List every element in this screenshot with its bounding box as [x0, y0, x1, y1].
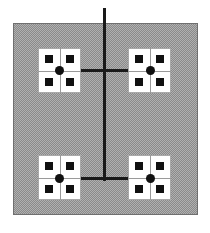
quadrant-marker-square: [45, 55, 53, 63]
quadrant-marker-square: [156, 162, 164, 170]
quadrant-marker-square: [156, 78, 164, 86]
quadrant-marker-square: [45, 78, 53, 86]
bottom-left-node-dot: [55, 174, 64, 183]
quadrant-marker-square: [45, 185, 53, 193]
quadrant-marker-square: [66, 185, 74, 193]
quadrant-marker-square: [66, 78, 74, 86]
quadrant-marker-square: [135, 78, 143, 86]
quadrant-marker-square: [156, 185, 164, 193]
top-right-node-dot: [146, 66, 155, 75]
quadrant-marker-square: [66, 55, 74, 63]
quadrant-marker-square: [135, 55, 143, 63]
quadrant-marker-square: [66, 162, 74, 170]
quadrant-marker-square: [135, 162, 143, 170]
top-left-node-dot: [55, 66, 64, 75]
bottom-right-node-dot: [146, 174, 155, 183]
quadrant-marker-square: [135, 185, 143, 193]
quadrant-marker-square: [156, 55, 164, 63]
root-stem-vertical-edge: [103, 8, 106, 181]
quadrant-marker-square: [45, 162, 53, 170]
quadtree-diagram: [0, 0, 210, 233]
